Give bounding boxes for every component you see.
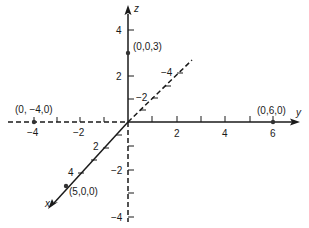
point-label-0-0-3: (0,0,3) <box>133 41 162 52</box>
x-tick-label-neg2: −2 <box>136 92 148 103</box>
point-5-0-0-marker <box>64 184 68 188</box>
point-0-6-0-marker <box>271 120 275 124</box>
z-axis-arrowhead-icon <box>125 5 132 15</box>
x-axis-label: x <box>44 198 51 209</box>
point-label-0-neg4-0: (0, −4,0) <box>15 104 53 115</box>
y-axis-ticks <box>34 116 273 122</box>
y-tick-label-neg4: −4 <box>27 127 39 138</box>
z-tick-label-neg2: −2 <box>111 165 123 176</box>
y-tick-label-6: 6 <box>270 128 276 139</box>
y-tick-label-2: 2 <box>174 128 180 139</box>
z-axis-ticks <box>128 30 134 217</box>
point-0-0-3-marker <box>126 51 130 55</box>
x-axis-ticks <box>78 73 183 173</box>
z-tick-label-2: 2 <box>116 71 122 82</box>
y-tick-label-4: 4 <box>222 128 228 139</box>
x-tick-label-neg4: −4 <box>161 67 173 78</box>
y-axis-label: y <box>295 107 302 118</box>
coordinate-diagram: z y x 4 2 −2 −4 −4 −2 2 4 6 2 4 −2 −4 (0… <box>0 0 309 228</box>
x-tick-label-4: 4 <box>68 167 74 178</box>
point-label-0-6-0: (0,6,0) <box>257 105 286 116</box>
y-tick-label-neg2: −2 <box>73 127 85 138</box>
x-tick-label-2: 2 <box>93 141 99 152</box>
point-0-neg4-0-marker <box>32 120 36 124</box>
x-axis-negative <box>128 60 192 122</box>
z-axis-label: z <box>133 3 139 14</box>
z-tick-label-4: 4 <box>116 25 122 36</box>
point-label-5-0-0: (5,0,0) <box>69 186 98 197</box>
z-tick-label-neg4: −4 <box>111 212 123 223</box>
